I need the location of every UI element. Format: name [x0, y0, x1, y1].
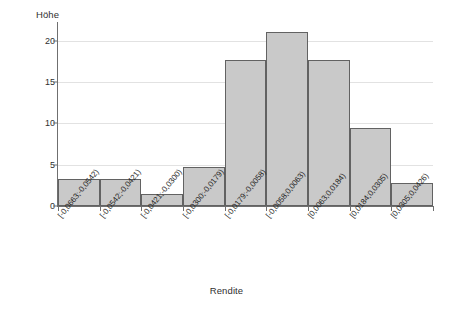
y-tick-label: 0	[0, 201, 55, 211]
y-tick-label: 10	[0, 118, 55, 128]
x-tick-mark	[433, 206, 434, 211]
y-tick-label: 15	[0, 77, 55, 87]
histogram-chart: Höhe 05101520 [-0,0663;-0,0542)[-0,0542;…	[0, 0, 453, 311]
x-axis-title: Rendite	[0, 285, 453, 296]
y-tick-label: 5	[0, 160, 55, 170]
y-axis-title: Höhe	[36, 9, 59, 20]
y-tick-label: 20	[0, 36, 55, 46]
